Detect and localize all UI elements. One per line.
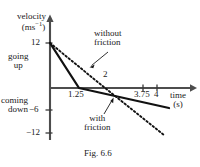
y-axis-unit-base: (ms <box>22 22 36 32</box>
x-tick-label-4: 4 <box>154 90 159 99</box>
going-up-label: going up <box>8 52 29 71</box>
coming-down-label: coming down <box>1 96 28 115</box>
y-axis-label: velocity (ms−1) <box>17 12 46 33</box>
x-axis-label-line2: (s) <box>170 100 186 109</box>
x-axis-label: time (s) <box>170 91 186 110</box>
with-friction-line2: friction <box>84 123 111 132</box>
with-friction-label: with friction <box>84 114 111 133</box>
x-tick-label-2: 2 <box>103 70 108 79</box>
without-friction-line2: friction <box>94 38 122 47</box>
x-tick-label-1-25: 1.25 <box>68 90 84 99</box>
y-tick-label-minus6: −6 <box>29 105 39 114</box>
with-friction-arrow <box>104 98 114 114</box>
y-axis-label-line2: (ms−1) <box>21 21 46 32</box>
coming-down-line2: down <box>1 105 28 114</box>
without-friction-label: without friction <box>94 29 122 48</box>
y-tick-label-minus12: −12 <box>26 128 40 137</box>
going-up-line2: up <box>8 61 29 70</box>
without-friction-arrow <box>90 52 109 68</box>
y-axis <box>46 15 53 141</box>
x-tick-label-3-75: 3.75 <box>134 90 150 99</box>
figure-caption: Fig. 6.6 <box>84 149 112 158</box>
y-tick-label-12: 12 <box>31 38 40 47</box>
y-axis-unit-tail: ) <box>42 22 45 32</box>
